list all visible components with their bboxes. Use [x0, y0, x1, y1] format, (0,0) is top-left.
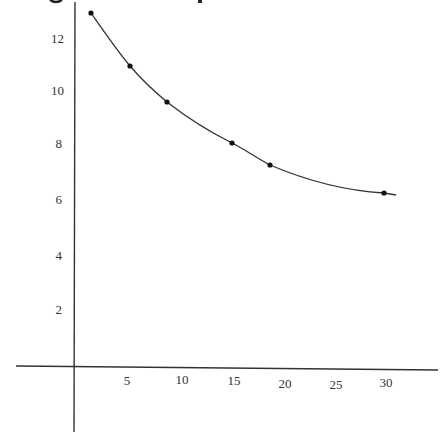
x-tick-label: 30: [380, 375, 393, 390]
x-tick-label: 10: [176, 372, 189, 387]
data-point: [164, 99, 169, 104]
y-tick-label: 4: [56, 248, 63, 263]
data-points: [88, 10, 386, 195]
y-tick-label: 2: [56, 302, 63, 317]
data-point: [88, 10, 93, 15]
y-axis: [74, 2, 75, 432]
truncated-caption-fragment: [50, 0, 202, 3]
x-tick-label: 15: [228, 373, 241, 388]
y-tick-label: 12: [51, 31, 64, 46]
data-point: [127, 63, 132, 68]
data-point: [229, 140, 234, 145]
y-tick-label: 10: [51, 83, 64, 98]
y-tick-labels: 12 10 8 6 4 2: [51, 31, 64, 317]
x-tick-label: 5: [124, 373, 131, 388]
y-tick-label: 6: [56, 192, 63, 207]
y-tick-label: 8: [56, 136, 63, 151]
x-tick-label: 25: [330, 377, 343, 392]
x-tick-label: 20: [279, 376, 292, 391]
x-tick-labels: 5 10 15 20 25 30: [124, 372, 393, 392]
data-point: [381, 190, 386, 195]
fitted-curve: [91, 13, 396, 195]
x-axis: [16, 366, 438, 370]
data-point: [267, 162, 272, 167]
chart: 12 10 8 6 4 2 5 10 15 20 25 30: [0, 0, 445, 448]
